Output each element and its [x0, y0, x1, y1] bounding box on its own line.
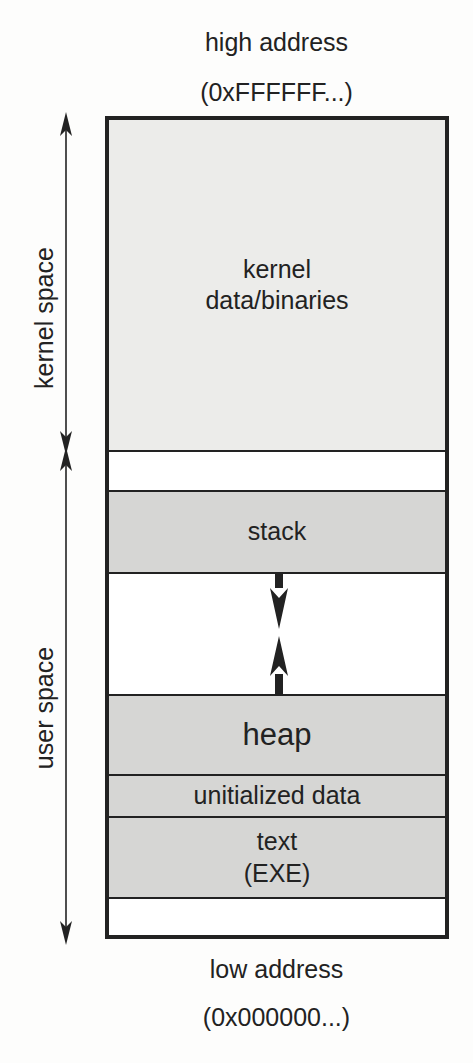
kernel-space-label: kernel space: [30, 247, 59, 389]
address-space-arrows: [0, 0, 105, 1063]
kernel-sublabel: data/binaries: [205, 285, 348, 316]
growth-arrows-icon: [259, 574, 299, 694]
memory-layout-box: kernel data/binaries stack heap unitiali…: [105, 116, 449, 939]
segment-text: text (EXE): [109, 816, 445, 897]
segment-stack: stack: [109, 490, 445, 572]
uninitialized-data-label: unitialized data: [194, 780, 361, 811]
segment-free: [109, 572, 445, 694]
heap-label: heap: [243, 716, 312, 755]
segment-gap-lower: [109, 897, 445, 935]
text-label: text: [257, 826, 297, 857]
segment-uninitialized-data: unitialized data: [109, 774, 445, 816]
segment-heap: heap: [109, 694, 445, 774]
stack-label: stack: [248, 516, 306, 547]
segment-kernel: kernel data/binaries: [109, 120, 445, 450]
kernel-label: kernel: [243, 254, 311, 285]
low-address-value: (0x000000...): [0, 1003, 473, 1032]
low-address-label: low address: [0, 955, 473, 984]
user-space-label: user space: [30, 647, 59, 769]
text-sublabel: (EXE): [244, 858, 311, 889]
segment-gap-upper: [109, 450, 445, 490]
